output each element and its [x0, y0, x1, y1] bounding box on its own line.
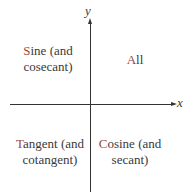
y-axis-label: y — [85, 4, 91, 17]
quadrant-2-label: Sine (and cosecant) — [14, 43, 82, 75]
quadrant-3-label: Tangent (and cotangent) — [14, 136, 86, 168]
quadrant-2-text-line2: cosecant) — [23, 59, 72, 74]
quadrant-4-label: Cosine (and secant) — [96, 136, 164, 168]
quadrant-1-label: All — [110, 52, 160, 68]
quadrant-3-text-line2: cotangent) — [23, 152, 78, 167]
quadrant-2-initial: S — [23, 43, 30, 58]
y-axis-line — [90, 22, 91, 192]
quadrant-3-initial: T — [16, 136, 23, 151]
quadrant-2-text-line1: ine (and — [31, 43, 73, 58]
quadrant-1-text-line1: ll — [136, 52, 143, 67]
quadrant-3-text-line1: angent (and — [23, 136, 84, 151]
x-axis-line — [10, 104, 174, 105]
x-axis-label: x — [177, 96, 183, 109]
quadrant-4-text-line1: osine (and — [107, 136, 161, 151]
y-axis-arrow-icon — [88, 18, 92, 24]
quadrant-1-initial: A — [127, 52, 136, 67]
quadrant-4-text-line2: secant) — [112, 152, 149, 167]
